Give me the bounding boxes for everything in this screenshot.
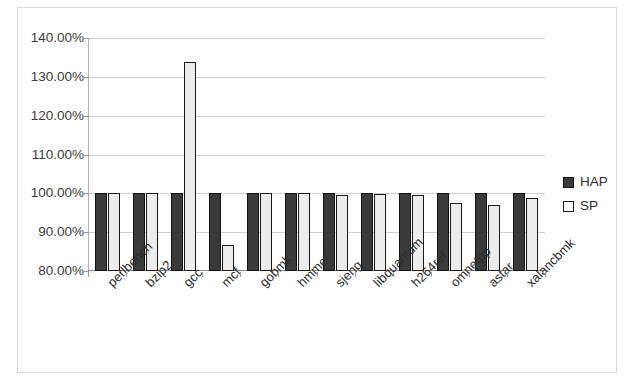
- bar-hap-xalancbmk: [513, 193, 525, 271]
- bar-hap-gobmk: [247, 193, 259, 271]
- gridline: [88, 77, 545, 78]
- x-axis-tick: [202, 272, 203, 277]
- x-axis-tick: [507, 272, 508, 277]
- y-axis-labels: 140.00%130.00%120.00%110.00%100.00%90.00…: [18, 0, 84, 382]
- bar-hap-libquantum: [361, 193, 373, 271]
- bar-sp-sjeng: [336, 195, 348, 272]
- legend-item-sp[interactable]: SP: [563, 194, 608, 218]
- x-axis-tick: [88, 272, 89, 277]
- bar-sp-gcc: [184, 62, 196, 271]
- y-axis-tick: [84, 116, 89, 117]
- legend-item-hap[interactable]: HAP: [563, 170, 608, 194]
- chart-legend: HAPSP: [563, 170, 608, 218]
- legend-label: SP: [580, 199, 598, 213]
- y-axis-tick: [84, 155, 89, 156]
- y-axis-tick-label: 100.00%: [18, 187, 84, 201]
- bar-sp-omnetpp: [450, 203, 462, 271]
- bar-hap-mcf: [209, 193, 221, 271]
- y-axis-tick-label: 130.00%: [18, 70, 84, 84]
- bar-sp-xalancbmk: [526, 198, 538, 271]
- bar-hap-gcc: [171, 193, 183, 271]
- chart-container: 140.00%130.00%120.00%110.00%100.00%90.00…: [0, 0, 632, 382]
- gridline: [88, 38, 545, 39]
- y-axis-tick: [84, 38, 89, 39]
- x-axis-tick: [240, 272, 241, 277]
- bar-sp-libquantum: [374, 194, 386, 271]
- plot-area: [88, 38, 545, 271]
- legend-label: HAP: [580, 175, 608, 189]
- gridline: [88, 155, 545, 156]
- bar-sp-astar: [488, 205, 500, 271]
- bar-sp-perlbench: [108, 193, 120, 271]
- x-axis-tick: [164, 272, 165, 277]
- y-axis-tick-label: 80.00%: [18, 264, 84, 278]
- legend-swatch-icon: [563, 177, 574, 188]
- bar-sp-gobmk: [260, 193, 272, 271]
- x-axis-tick: [355, 272, 356, 277]
- x-axis-tick: [545, 272, 546, 277]
- bar-sp-hmmer: [298, 193, 310, 271]
- x-axis-tick: [317, 272, 318, 277]
- bar-hap-perlbench: [95, 193, 107, 271]
- x-axis-tick: [431, 272, 432, 277]
- y-axis-tick-label: 120.00%: [18, 109, 84, 123]
- gridline: [88, 116, 545, 117]
- bar-sp-h264ref: [412, 195, 424, 271]
- y-axis-tick: [84, 77, 89, 78]
- bar-sp-bzip2: [146, 193, 158, 271]
- y-axis-tick-label: 90.00%: [18, 225, 84, 239]
- y-axis-tick-label: 140.00%: [18, 31, 84, 45]
- y-axis-tick: [84, 232, 89, 233]
- x-axis-tick: [393, 272, 394, 277]
- y-axis-tick-label: 110.00%: [18, 148, 84, 162]
- x-axis-tick: [278, 272, 279, 277]
- legend-swatch-icon: [563, 201, 574, 212]
- x-axis-tick: [126, 272, 127, 277]
- y-axis-tick: [84, 193, 89, 194]
- x-axis-tick: [469, 272, 470, 277]
